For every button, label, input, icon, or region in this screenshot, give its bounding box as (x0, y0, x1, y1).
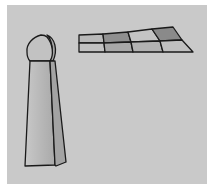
board-grid (79, 27, 193, 52)
game-piece (25, 35, 66, 166)
illustration-canvas (0, 0, 213, 190)
